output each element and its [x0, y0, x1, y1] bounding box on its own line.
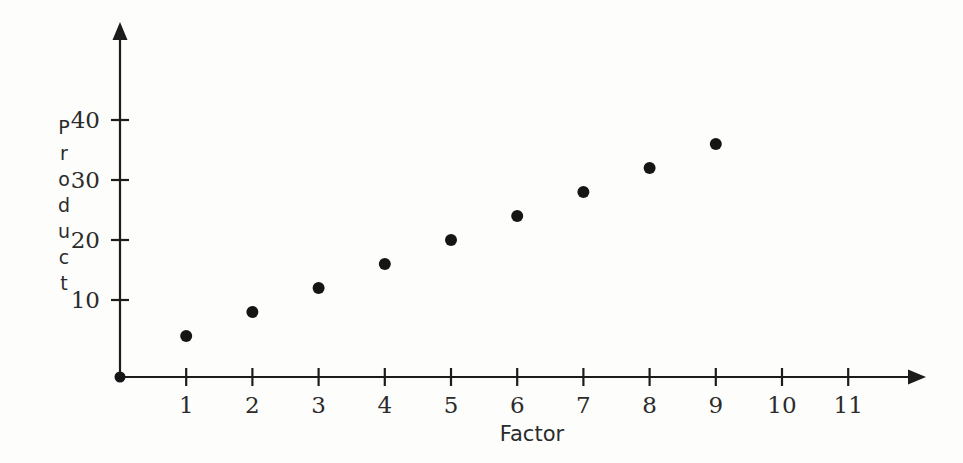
data-point — [511, 210, 523, 222]
x-tick-label: 7 — [576, 392, 591, 418]
y-axis-title: Product — [58, 116, 70, 294]
data-point — [644, 162, 656, 174]
x-axis-title: Factor — [500, 422, 565, 446]
y-axis-title-letter: d — [58, 194, 70, 216]
x-axis-ticks: 1234567891011 — [179, 368, 863, 418]
y-axis-title-letter: r — [60, 142, 68, 164]
x-tick-label: 3 — [311, 392, 326, 418]
x-tick-label: 2 — [245, 392, 260, 418]
data-point — [379, 258, 391, 270]
x-axis-title-text: Factor — [500, 422, 565, 446]
data-point — [577, 186, 589, 198]
y-tick-label: 10 — [71, 287, 100, 313]
y-axis-arrow-icon — [113, 22, 128, 40]
x-axis-arrow-icon — [908, 370, 926, 385]
x-tick-label: 4 — [377, 392, 392, 418]
y-axis-title-letter: u — [58, 220, 70, 242]
x-tick-label: 8 — [642, 392, 657, 418]
data-points — [115, 138, 722, 383]
y-axis-title-letter: P — [58, 116, 69, 138]
y-tick-label: 30 — [71, 167, 100, 193]
y-axis-title-letter: o — [58, 168, 70, 190]
x-tick-label: 1 — [179, 392, 194, 418]
data-point — [710, 138, 722, 150]
y-tick-label: 40 — [71, 107, 100, 133]
y-axis-title-letter: c — [59, 246, 69, 268]
x-tick-label: 11 — [834, 392, 863, 418]
chart-canvas: 1234567891011 10203040 Factor Product — [0, 0, 963, 463]
x-tick-label: 10 — [767, 392, 796, 418]
data-point — [246, 306, 258, 318]
origin-data-point — [115, 372, 126, 383]
y-tick-label: 20 — [71, 227, 100, 253]
axes — [113, 22, 927, 385]
y-axis-title-letter: t — [60, 272, 67, 294]
data-point — [313, 282, 325, 294]
data-point — [445, 234, 457, 246]
x-tick-label: 9 — [708, 392, 723, 418]
data-point — [180, 330, 192, 342]
scatter-plot: 1234567891011 10203040 Factor Product — [0, 0, 963, 463]
x-tick-label: 6 — [510, 392, 525, 418]
x-tick-label: 5 — [444, 392, 459, 418]
